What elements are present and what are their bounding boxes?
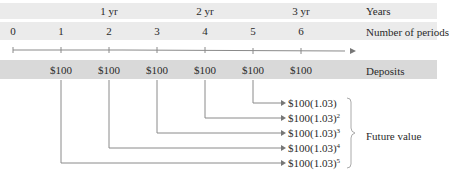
future-value-1: $100(1.03) — [288, 97, 337, 109]
axis-arrowhead-icon — [350, 48, 356, 54]
arrowhead-icon — [281, 160, 286, 166]
brace-icon — [347, 98, 355, 168]
connector-period-2 — [109, 80, 281, 148]
arrowhead-icon — [281, 145, 286, 151]
future-value-2: $100(1.03)2 — [288, 112, 340, 124]
future-value-label: Future value — [366, 130, 421, 142]
future-value-5: $100(1.03)5 — [288, 157, 340, 169]
arrowhead-icon — [281, 130, 286, 136]
connector-period-1 — [61, 80, 281, 163]
arrowhead-icon — [281, 115, 286, 121]
future-value-3: $100(1.03)3 — [288, 127, 340, 139]
connector-period-4 — [205, 80, 281, 118]
arrowhead-icon — [281, 100, 286, 106]
connector-period-5 — [253, 80, 281, 103]
future-value-4: $100(1.03)4 — [288, 142, 340, 154]
connector-period-3 — [157, 80, 281, 133]
